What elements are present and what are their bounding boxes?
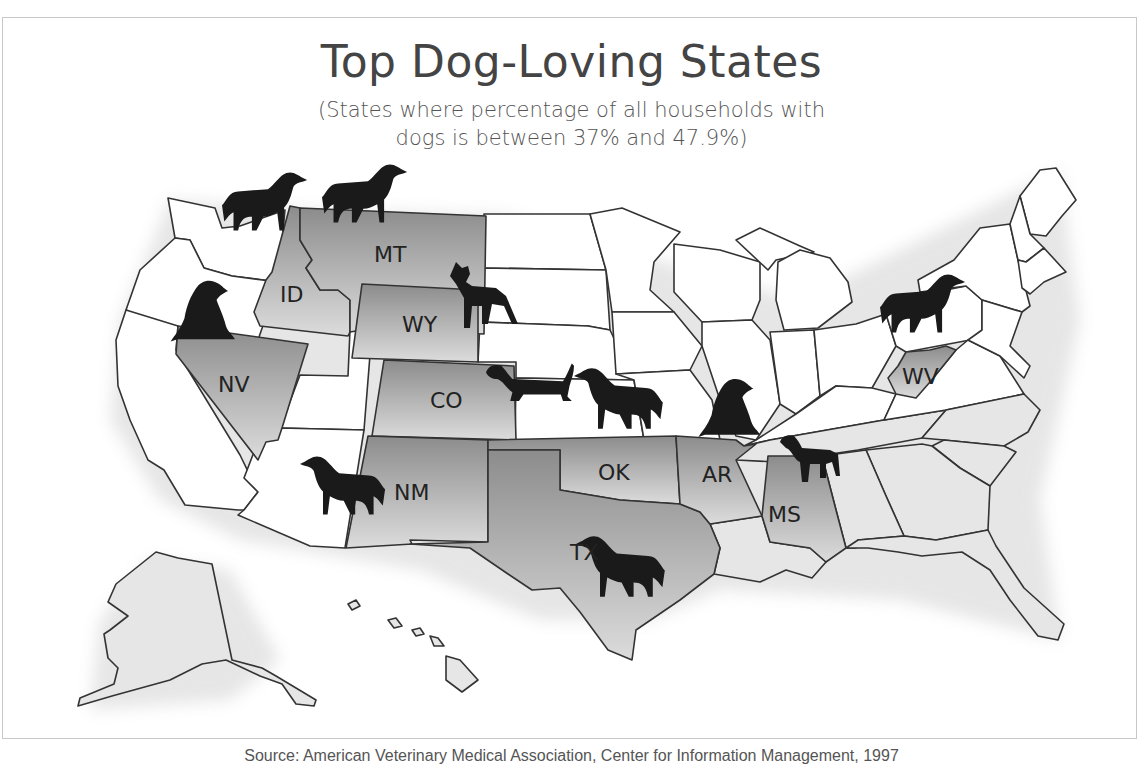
state-hi-4 [430,636,444,646]
label-nm: NM [394,480,429,505]
label-nv: NV [218,372,250,397]
source-credit: Source: American Veterinary Medical Asso… [0,747,1143,765]
state-hi-3 [412,628,424,636]
label-co: CO [430,388,463,413]
state-nd [482,214,606,270]
state-hi-5 [446,656,478,692]
label-ok: OK [598,460,630,485]
label-id: ID [280,282,303,307]
state-ak-hi [78,552,478,706]
label-ms: MS [768,502,801,527]
state-hi-1 [348,600,360,610]
label-tx: TX [569,540,599,565]
label-mt: MT [374,242,407,267]
label-wv: WV [902,364,939,389]
label-ar: AR [702,462,732,487]
label-wy: WY [402,312,438,337]
state-hi-2 [388,618,402,628]
